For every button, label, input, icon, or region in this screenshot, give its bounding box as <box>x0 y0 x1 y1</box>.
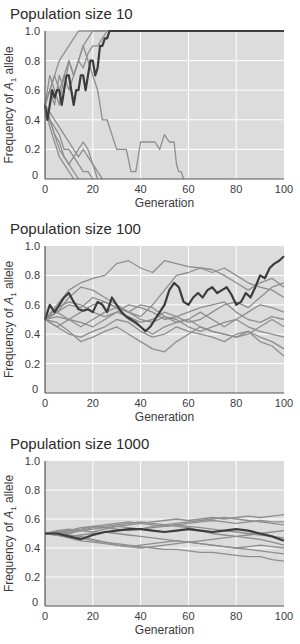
x-tick-label: 60 <box>182 183 194 195</box>
x-tick-label: 0 <box>42 183 48 195</box>
x-tick-label: 40 <box>134 610 146 622</box>
y-tick-label: 0.6 <box>25 513 40 525</box>
y-tick-label: 0.8 <box>25 269 40 281</box>
y-tick-label: 0.8 <box>25 484 40 496</box>
y-tick-label: 1.0 <box>25 25 40 37</box>
y-tick-label: 0 <box>32 596 38 608</box>
y-axis-label: Frequency of A1 allele <box>2 46 18 164</box>
y-tick-label: 0 <box>32 383 38 395</box>
x-tick-label: 80 <box>230 183 242 195</box>
y-tick-label: 0.8 <box>25 55 40 67</box>
plot-area: 00.20.40.60.81.0020406080100GenerationFr… <box>0 0 300 215</box>
y-tick-label: 0.2 <box>25 358 40 370</box>
plot-area: 00.20.40.60.81.0020406080100GenerationFr… <box>0 430 300 644</box>
x-tick-label: 20 <box>87 183 99 195</box>
x-tick-label: 60 <box>182 397 194 409</box>
y-tick-label: 0.2 <box>25 571 40 583</box>
x-axis-label: Generation <box>135 196 194 210</box>
y-tick-label: 0.4 <box>25 542 40 554</box>
chart-population-10: Population size 10 00.20.40.60.81.002040… <box>0 0 300 215</box>
chart-population-1000: Population size 1000 00.20.40.60.81.0020… <box>0 430 300 644</box>
y-tick-label: 0.2 <box>25 143 40 155</box>
y-tick-label: 1.0 <box>25 240 40 252</box>
chart-population-100: Population size 100 00.20.40.60.81.00204… <box>0 215 300 430</box>
x-tick-label: 100 <box>275 397 293 409</box>
x-tick-label: 40 <box>134 183 146 195</box>
y-tick-label: 0.6 <box>25 299 40 311</box>
x-tick-label: 100 <box>275 183 293 195</box>
y-tick-label: 0 <box>32 169 38 181</box>
x-tick-label: 20 <box>87 397 99 409</box>
x-tick-label: 100 <box>275 610 293 622</box>
y-tick-label: 0.4 <box>25 114 40 126</box>
y-tick-label: 1.0 <box>25 455 40 467</box>
plot-area: 00.20.40.60.81.0020406080100GenerationFr… <box>0 215 300 430</box>
x-axis-label: Generation <box>135 623 194 637</box>
y-tick-label: 0.6 <box>25 84 40 96</box>
x-tick-label: 20 <box>87 610 99 622</box>
y-axis-label: Frequency of A1 allele <box>2 261 18 379</box>
x-axis-label: Generation <box>135 410 194 424</box>
y-axis-label: Frequency of A1 allele <box>2 475 18 593</box>
x-tick-label: 40 <box>134 397 146 409</box>
x-tick-label: 0 <box>42 610 48 622</box>
x-tick-label: 80 <box>230 610 242 622</box>
x-tick-label: 0 <box>42 397 48 409</box>
x-tick-label: 60 <box>182 610 194 622</box>
y-tick-label: 0.4 <box>25 328 40 340</box>
x-tick-label: 80 <box>230 397 242 409</box>
